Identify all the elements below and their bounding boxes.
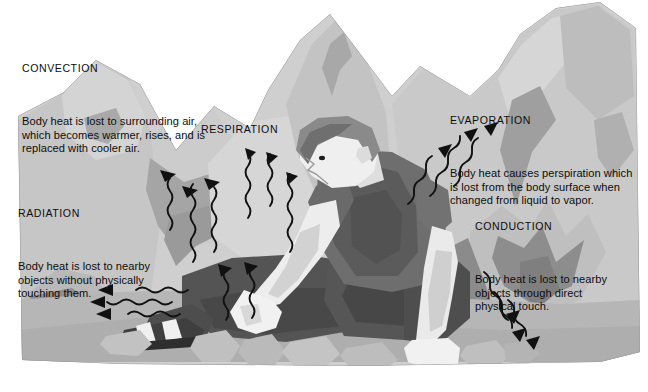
person-eye xyxy=(319,156,325,160)
caption-convection-body: Body heat is lost to surrounding air, wh… xyxy=(22,115,205,156)
caption-respiration: RESPIRATION xyxy=(201,84,278,176)
caption-conduction-heading: CONDUCTION xyxy=(475,220,607,233)
caption-conduction: CONDUCTION Body heat is lost to nearby o… xyxy=(475,181,607,353)
caption-evaporation-heading: EVAPORATION xyxy=(450,114,632,127)
illustration-canvas: CONVECTION Body heat is lost to surround… xyxy=(0,0,648,392)
caption-radiation: RADIATION Body heat is lost to nearby ob… xyxy=(18,168,150,340)
caption-convection-heading: CONVECTION xyxy=(22,62,205,75)
caption-conduction-body: Body heat is lost to nearby objects thro… xyxy=(475,273,607,314)
caption-radiation-heading: RADIATION xyxy=(18,207,150,220)
caption-radiation-body: Body heat is lost to nearby objects with… xyxy=(18,260,150,301)
person-hand-far xyxy=(404,338,460,370)
caption-respiration-heading: RESPIRATION xyxy=(201,123,278,136)
